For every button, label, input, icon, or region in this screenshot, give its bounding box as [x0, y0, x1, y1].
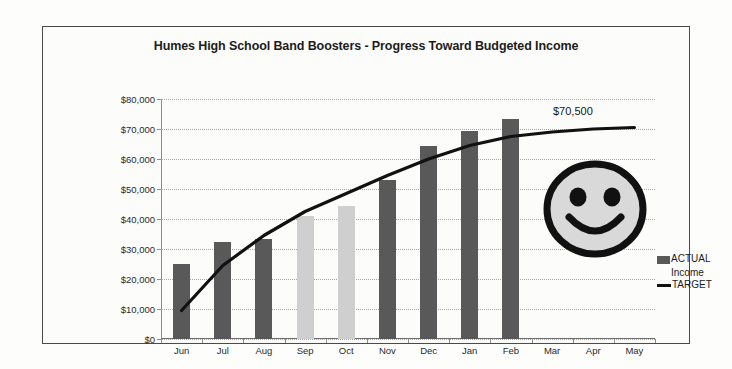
gridline [161, 279, 655, 280]
bar-aug [255, 239, 272, 340]
x-tick-mark [408, 339, 409, 343]
x-tick-mark [161, 339, 162, 343]
chart-legend: ACTUAL Income TARGET [657, 253, 731, 292]
y-tick-label: $0 [144, 334, 155, 345]
y-tick-mark [157, 189, 161, 190]
x-tick-label-feb: Feb [491, 345, 531, 356]
y-tick-label: $10,000 [121, 304, 155, 315]
x-tick-mark [449, 339, 450, 343]
y-tick-mark [157, 279, 161, 280]
x-tick-label-aug: Aug [244, 345, 284, 356]
y-tick-label: $40,000 [121, 214, 155, 225]
gridline [161, 309, 655, 310]
legend-swatch-actual-icon [657, 256, 670, 264]
target-end-value-label: $70,500 [553, 105, 593, 117]
y-tick-label: $70,000 [121, 124, 155, 135]
y-tick-label: $80,000 [121, 94, 155, 105]
legend-label-actual-line1: ACTUAL [671, 253, 710, 266]
legend-label-actual-line2: Income [671, 267, 731, 280]
x-tick-label-may: May [614, 345, 654, 356]
x-tick-label-oct: Oct [326, 345, 366, 356]
y-tick-mark [157, 309, 161, 310]
x-axis-labels: JunJulAugSepOctNovDecJanFebMarAprMay [161, 27, 655, 28]
y-tick-mark [157, 219, 161, 220]
chart-frame: Humes High School Band Boosters - Progre… [42, 26, 690, 344]
bar-nov [379, 180, 396, 339]
legend-item-target: TARGET [657, 279, 731, 292]
bar-feb [502, 119, 519, 340]
y-tick-mark [157, 159, 161, 160]
y-tick-mark [157, 249, 161, 250]
bar-oct [338, 206, 355, 340]
x-tick-mark [243, 339, 244, 343]
y-tick-mark [157, 129, 161, 130]
x-tick-label-mar: Mar [532, 345, 572, 356]
legend-item-actual-income: ACTUAL [657, 253, 731, 266]
x-tick-label-nov: Nov [367, 345, 407, 356]
legend-label-target: TARGET [672, 279, 712, 292]
x-tick-mark [202, 339, 203, 343]
smiley-face-icon [541, 159, 649, 259]
gridline [161, 99, 655, 100]
x-tick-mark [573, 339, 574, 343]
x-tick-label-jun: Jun [162, 345, 202, 356]
y-tick-label: $50,000 [121, 184, 155, 195]
bar-sep [297, 216, 314, 339]
x-tick-mark [532, 339, 533, 343]
x-tick-label-apr: Apr [573, 345, 613, 356]
x-tick-label-sep: Sep [285, 345, 325, 356]
x-tick-label-dec: Dec [409, 345, 449, 356]
bar-jun [173, 264, 190, 339]
legend-swatch-target-icon [657, 284, 671, 287]
x-tick-mark [490, 339, 491, 343]
y-tick-label: $60,000 [121, 154, 155, 165]
y-tick-mark [157, 99, 161, 100]
bar-dec [420, 146, 437, 340]
y-tick-label: $20,000 [121, 274, 155, 285]
x-tick-mark [285, 339, 286, 343]
gridline [161, 129, 655, 130]
chart-page: Humes High School Band Boosters - Progre… [0, 0, 732, 369]
bar-jul [214, 242, 231, 340]
x-tick-mark [367, 339, 368, 343]
x-tick-label-jan: Jan [450, 345, 490, 356]
x-tick-mark [326, 339, 327, 343]
x-tick-label-jul: Jul [203, 345, 243, 356]
x-tick-mark [614, 339, 615, 343]
y-tick-label: $30,000 [121, 244, 155, 255]
chart-title: Humes High School Band Boosters - Progre… [43, 39, 689, 53]
y-axis-labels: $80,000$70,000$60,000$50,000$40,000$30,0… [91, 99, 155, 339]
x-tick-mark [655, 339, 656, 343]
bar-jan [461, 131, 478, 340]
